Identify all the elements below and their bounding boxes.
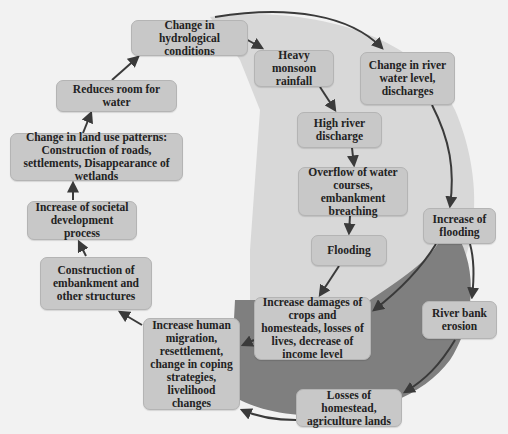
node-label: Increase of flooding [428, 213, 491, 239]
node-label: Increase damages of crops and homesteads… [259, 296, 366, 361]
node-heavy-monsoon-rainfall: Heavy monsoon rainfall [254, 50, 334, 87]
node-increase-of-flooding: Increase of flooding [423, 208, 496, 244]
node-increase-human-migration: Increase human migration, resettlement, … [143, 318, 240, 410]
node-label: River bank erosion [427, 307, 492, 333]
arrow-reduces-hydro [112, 57, 138, 80]
node-label: Flooding [327, 244, 370, 257]
node-change-in-hydrological-conditions: Change in hydrological conditions [131, 20, 248, 56]
node-label: High river discharge [302, 117, 377, 143]
node-flooding: Flooding [311, 235, 387, 266]
node-change-in-river-water-level: Change in river water level, discharges [360, 52, 455, 105]
node-reduces-room-for-water: Reduces room for water [56, 80, 177, 112]
node-label: Increase of societal development process [32, 201, 132, 240]
node-label: Construction of embankment and other str… [45, 264, 147, 303]
node-label: Heavy monsoon rainfall [259, 49, 329, 88]
arrow-migration-embankment [120, 312, 142, 325]
node-label: Change in river water level, discharges [365, 59, 450, 98]
node-losses-of-homestead: Losses of homestead, agriculture lands [296, 389, 402, 427]
arrow-embankment-societal [79, 242, 86, 256]
node-label: Change in land use patterns: Constructio… [15, 131, 178, 183]
arrow-landuse-reduces [83, 113, 91, 133]
node-overflow-of-water-courses: Overflow of water courses, embankment br… [298, 167, 408, 216]
node-label: Overflow of water courses, embankment br… [303, 166, 403, 218]
node-label: Losses of homestead, agriculture lands [301, 389, 397, 428]
arrow-overflow-flooding [349, 216, 350, 233]
node-river-bank-erosion: River bank erosion [422, 301, 497, 339]
node-construction-of-embankment: Construction of embankment and other str… [40, 257, 152, 310]
node-label: Increase human migration, resettlement, … [148, 319, 235, 410]
node-change-in-land-use-patterns: Change in land use patterns: Constructio… [10, 133, 183, 181]
node-high-river-discharge: High river discharge [297, 112, 382, 148]
node-label: Reduces room for water [61, 83, 172, 109]
node-label: Change in hydrological conditions [136, 19, 243, 58]
node-increase-of-societal-development: Increase of societal development process [27, 201, 137, 240]
node-increase-damages-of-crops: Increase damages of crops and homesteads… [254, 297, 371, 360]
